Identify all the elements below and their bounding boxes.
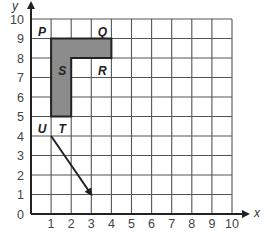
vertex-label-q: Q (98, 25, 108, 39)
y-tick-label: 8 (17, 52, 24, 66)
y-tick-label: 0 (17, 208, 24, 222)
y-tick-label: 6 (17, 91, 24, 105)
x-tick-label: 5 (128, 217, 135, 231)
x-tick-label: 9 (208, 217, 215, 231)
y-tick-label: 1 (17, 188, 24, 202)
y-tick-label: 7 (17, 71, 24, 85)
y-tick-label: 4 (17, 130, 24, 144)
x-tick-label: 2 (68, 217, 75, 231)
y-tick-label: 5 (17, 110, 24, 124)
vertex-label-u: U (38, 122, 47, 136)
y-tick-labels: 012345678910 (10, 13, 24, 222)
vertex-label-p: P (38, 25, 47, 39)
y-tick-label: 9 (17, 32, 24, 46)
vertex-label-s: S (58, 64, 66, 78)
vertex-label-r: R (98, 64, 107, 78)
y-tick-label: 2 (17, 169, 24, 183)
x-tick-label: 6 (148, 217, 155, 231)
x-tick-label: 10 (225, 217, 239, 231)
x-axis-label: x (253, 206, 261, 220)
y-axis-label: y (11, 0, 19, 13)
x-tick-label: 7 (168, 217, 175, 231)
vertex-label-t: T (58, 122, 67, 136)
x-tick-label: 8 (188, 217, 195, 231)
x-tick-label: 3 (88, 217, 95, 231)
coordinate-grid-diagram: 12345678910 012345678910 PQRSTU x y (0, 0, 268, 234)
x-tick-labels: 12345678910 (48, 217, 239, 231)
y-tick-label: 10 (10, 13, 24, 27)
x-tick-label: 4 (108, 217, 115, 231)
y-tick-label: 3 (17, 149, 24, 163)
x-tick-label: 1 (48, 217, 55, 231)
